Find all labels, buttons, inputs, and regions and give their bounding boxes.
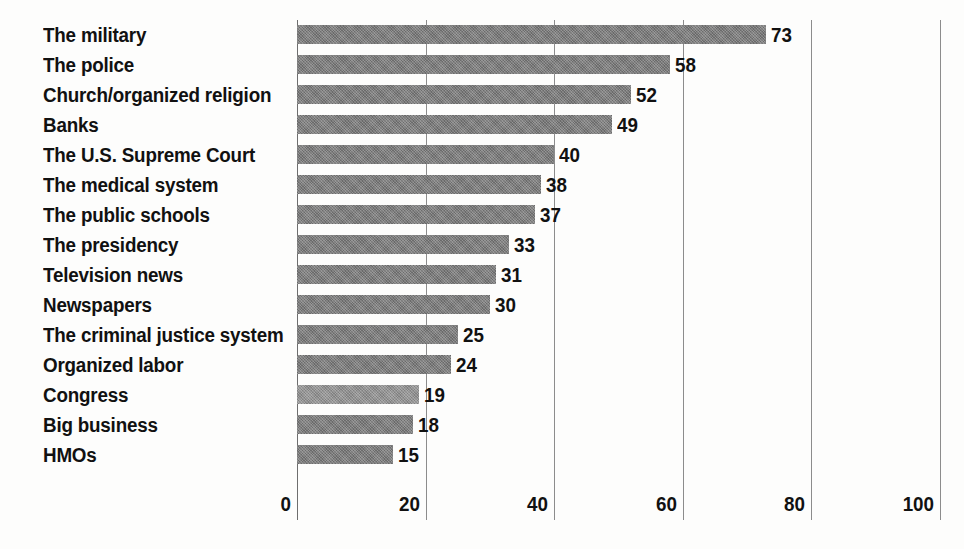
bar	[297, 385, 419, 404]
bar	[297, 25, 766, 44]
x-tick-label-20: 20	[312, 492, 419, 516]
x-tick-label-40: 40	[441, 492, 548, 516]
category-label: HMOs	[43, 440, 97, 470]
bar-value-label: 49	[617, 114, 638, 136]
category-label: Organized labor	[43, 350, 183, 380]
bar-row: HMOs15	[0, 440, 964, 470]
bar-value-label: 31	[501, 264, 522, 286]
x-tick-label-60: 60	[570, 492, 677, 516]
bar-value-label: 15	[398, 444, 419, 466]
bar	[297, 415, 413, 434]
category-label: The medical system	[43, 170, 218, 200]
bar-row: Organized labor24	[0, 350, 964, 380]
bar-row: The medical system38	[0, 170, 964, 200]
bar-row: The criminal justice system25	[0, 320, 964, 350]
bar-row: The military73	[0, 20, 964, 50]
bar-value-label: 30	[495, 294, 516, 316]
bar	[297, 325, 458, 344]
bar-value-label: 24	[456, 354, 477, 376]
bar-value-label: 58	[675, 54, 696, 76]
bar-row: The U.S. Supreme Court40	[0, 140, 964, 170]
bar-value-label: 37	[540, 204, 561, 226]
bar	[297, 85, 631, 104]
bar-row: The public schools37	[0, 200, 964, 230]
category-label: The U.S. Supreme Court	[43, 140, 255, 170]
x-tick-label-100: 100	[827, 492, 934, 516]
category-label: The military	[43, 20, 146, 50]
bar	[297, 265, 496, 284]
category-label: The criminal justice system	[43, 320, 283, 350]
bar-row: Big business18	[0, 410, 964, 440]
bar	[297, 175, 541, 194]
bar	[297, 145, 554, 164]
bar-value-label: 33	[514, 234, 535, 256]
bar-row: The police58	[0, 50, 964, 80]
bar-row: Church/organized religion52	[0, 80, 964, 110]
bar-value-label: 18	[418, 414, 439, 436]
bar	[297, 295, 490, 314]
x-tick-label-80: 80	[698, 492, 805, 516]
bar-value-label: 19	[424, 384, 445, 406]
bar-value-label: 38	[546, 174, 567, 196]
plot-area: The military73The police58Church/organiz…	[0, 0, 964, 549]
bar	[297, 55, 670, 74]
category-label: The presidency	[43, 230, 178, 260]
bar	[297, 205, 535, 224]
bar-row: Newspapers30	[0, 290, 964, 320]
bar-value-label: 52	[636, 84, 657, 106]
category-label: Congress	[43, 380, 128, 410]
bar-value-label: 73	[771, 24, 792, 46]
category-label: The public schools	[43, 200, 210, 230]
bar	[297, 235, 509, 254]
bar-row: Banks49	[0, 110, 964, 140]
category-label: Television news	[43, 260, 183, 290]
category-label: The police	[43, 50, 134, 80]
bar-value-label: 25	[463, 324, 484, 346]
category-label: Newspapers	[43, 290, 152, 320]
bar	[297, 355, 451, 374]
x-tick-label-0: 0	[184, 492, 291, 516]
bar-row: Television news31	[0, 260, 964, 290]
bar-row: The presidency33	[0, 230, 964, 260]
bar-value-label: 40	[559, 144, 580, 166]
bar	[297, 445, 393, 464]
bar-chart: The military73The police58Church/organiz…	[0, 0, 964, 549]
category-label: Big business	[43, 410, 158, 440]
category-label: Church/organized religion	[43, 80, 271, 110]
bar-row: Congress19	[0, 380, 964, 410]
bar	[297, 115, 612, 134]
category-label: Banks	[43, 110, 98, 140]
